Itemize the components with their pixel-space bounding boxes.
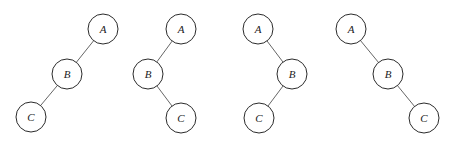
node-label: A [177, 23, 185, 35]
node-a: A [336, 14, 366, 44]
node-label: A [347, 23, 355, 35]
node-label: B [64, 68, 71, 80]
node-label: A [254, 23, 262, 35]
node-label: C [27, 111, 35, 123]
node-label: C [420, 112, 428, 124]
edge-b-c [268, 86, 283, 106]
node-label: A [99, 23, 107, 35]
node-b: B [373, 59, 403, 89]
tree-4: ABC [336, 14, 439, 133]
node-label: B [289, 68, 296, 80]
node-label: B [385, 68, 392, 80]
node-c: C [409, 103, 439, 133]
edge-a-b [267, 41, 283, 62]
node-a: A [166, 14, 196, 44]
node-label: C [255, 112, 263, 124]
tree-1: ABC [16, 14, 118, 132]
node-c: C [166, 103, 196, 133]
node-label: B [145, 68, 152, 80]
edge-a-b [157, 41, 172, 62]
edge-b-c [157, 86, 172, 106]
edge-b-c [41, 86, 58, 106]
tree-2: ABC [133, 14, 196, 133]
edge-a-b [361, 41, 379, 63]
diagram-canvas: ABCABCABCABC [0, 0, 453, 147]
node-b: B [52, 59, 82, 89]
nodes-layer: ABCABCABCABC [16, 14, 439, 133]
node-label: C [177, 112, 185, 124]
edge-a-b [76, 41, 93, 63]
tree-3: ABC [243, 14, 307, 133]
node-c: C [16, 102, 46, 132]
edges-layer [41, 41, 415, 107]
node-b: B [277, 59, 307, 89]
node-b: B [133, 59, 163, 89]
node-c: C [244, 103, 274, 133]
node-a: A [88, 14, 118, 44]
edge-b-c [397, 86, 414, 107]
node-a: A [243, 14, 273, 44]
